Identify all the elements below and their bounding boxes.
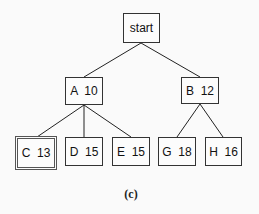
node-G: G 18 bbox=[158, 137, 196, 166]
node-E: E 15 bbox=[112, 137, 150, 166]
edge-B-G bbox=[177, 104, 200, 137]
node-C-goal: C 13 bbox=[15, 136, 57, 170]
node-A: A 10 bbox=[65, 77, 103, 105]
figure-caption: (c) bbox=[0, 187, 259, 202]
node-B: B 12 bbox=[181, 77, 219, 104]
edge-A-E bbox=[84, 105, 131, 137]
node-start: start bbox=[123, 13, 160, 43]
edge-start-A bbox=[84, 43, 141, 77]
node-D: D 15 bbox=[65, 137, 103, 166]
node-H: H 16 bbox=[205, 137, 242, 166]
edge-B-H bbox=[200, 104, 223, 137]
edge-start-B bbox=[141, 43, 200, 77]
edge-A-C bbox=[37, 105, 84, 137]
